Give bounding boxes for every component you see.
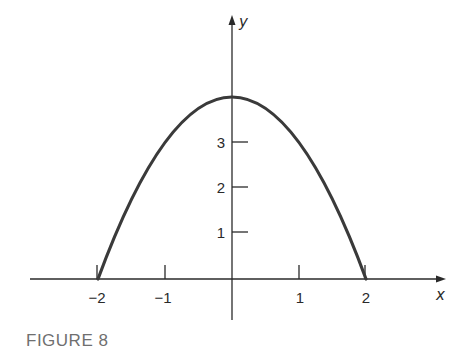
figure-caption: FIGURE 8: [26, 331, 108, 351]
x-tick-label-neg2: −2: [88, 289, 105, 306]
x-axis-arrow-icon: [436, 276, 446, 283]
parabola-chart: −2 −1 1 2 3 2 1 x y: [0, 0, 461, 354]
y-tick-label-1: 1: [217, 224, 225, 241]
y-tick-label-3: 3: [217, 134, 225, 151]
x-tick-label-neg1: −1: [154, 289, 171, 306]
y-ticks: [232, 142, 248, 232]
y-axis-arrow-icon: [229, 15, 236, 25]
x-axis-label: x: [435, 286, 445, 304]
y-axis-label: y: [238, 13, 249, 31]
x-tick-label-1: 1: [296, 289, 304, 306]
y-tick-label-2: 2: [217, 179, 225, 196]
x-tick-label-2: 2: [362, 289, 370, 306]
x-ticks: [97, 265, 365, 279]
